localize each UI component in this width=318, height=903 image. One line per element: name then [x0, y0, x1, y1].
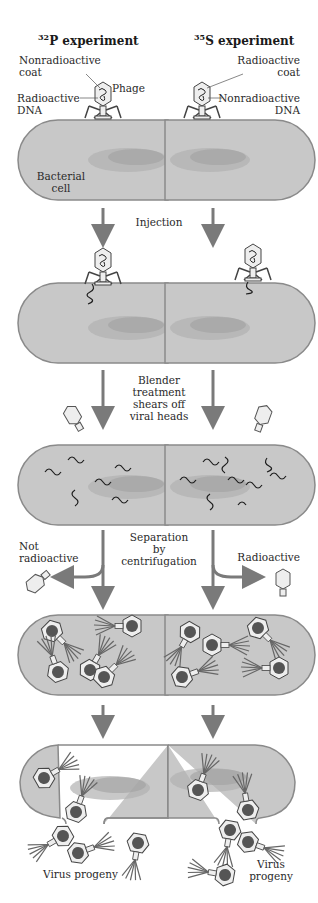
label-radioactive: Radioactive — [237, 551, 300, 563]
cell-row3-right — [165, 445, 315, 525]
cell-row3-left — [18, 445, 168, 525]
label-bacterial-cell: Bacterialcell — [36, 170, 86, 194]
phage-injecting-left-icon — [85, 248, 121, 285]
supernatant-coat-right-icon — [276, 569, 290, 596]
label-left-dna: RadioactiveDNA — [17, 92, 80, 116]
sheared-head-left-icon — [61, 403, 87, 433]
cell-row4-left — [18, 615, 168, 695]
label-virus-progeny-left: Virus progeny — [43, 868, 118, 880]
cell-row1-right — [165, 120, 315, 200]
label-virus-progeny-right: Virusprogeny — [246, 858, 296, 882]
step-centrifugation: Separationbycentrifugation — [118, 531, 200, 567]
step-blender: Blendertreatmentshears offviral heads — [118, 374, 200, 422]
label-right-coat: Radioactivecoat — [237, 54, 300, 78]
label-right-dna: NonradioactiveDNA — [218, 92, 300, 116]
sheared-head-right-icon — [251, 403, 273, 433]
phage-injecting-right-icon — [235, 244, 271, 281]
supernatant-coat-left-icon — [23, 567, 53, 595]
label-phage: Phage — [112, 82, 145, 94]
cell-row2-right — [165, 283, 315, 363]
title-32p-experiment: 32P experiment — [38, 32, 139, 48]
hershey-chase-diagram — [0, 0, 318, 903]
label-not-radioactive: Notradioactive — [19, 540, 79, 564]
title-35s-experiment: 35S experiment — [194, 32, 294, 48]
label-left-coat: Nonradioactivecoat — [19, 54, 101, 78]
cell-row2-left — [18, 283, 168, 363]
phage-right-icon — [184, 82, 220, 119]
step-injection: Injection — [118, 216, 200, 228]
